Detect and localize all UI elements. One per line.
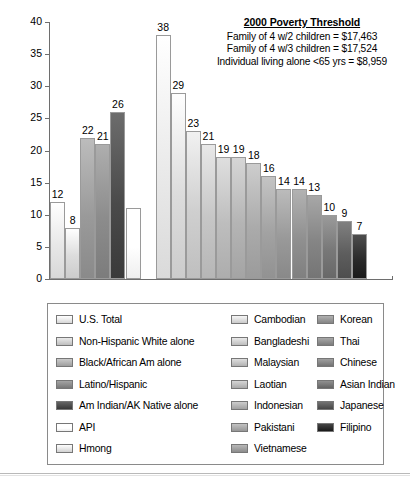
- legend-column-1: U.S. TotalNon-Hispanic White aloneBlack/…: [56, 309, 231, 460]
- legend-item[interactable]: Chinese: [317, 352, 389, 374]
- legend-swatch: [56, 337, 73, 346]
- legend-item[interactable]: Filipino: [317, 417, 389, 439]
- bar: [201, 144, 216, 279]
- bar-value-label: 16: [255, 162, 282, 174]
- legend-label: Malaysian: [254, 357, 299, 368]
- legend-label: Filipino: [340, 422, 371, 433]
- y-tick-mark: [45, 22, 49, 23]
- legend-item[interactable]: Korean: [317, 309, 389, 331]
- legend-swatch: [317, 380, 334, 389]
- bar: [216, 157, 231, 279]
- legend-item[interactable]: Am Indian/AK Native alone: [56, 395, 231, 417]
- legend-label: Vietnamese: [254, 443, 307, 454]
- legend-label: Indonesian: [254, 400, 303, 411]
- legend-swatch: [231, 423, 248, 432]
- legend-item[interactable]: Pakistani: [231, 417, 317, 439]
- legend-item[interactable]: Indonesian: [231, 395, 317, 417]
- y-tick-label: 25: [22, 111, 42, 123]
- legend-swatch: [56, 358, 73, 367]
- bar: [246, 163, 261, 279]
- chart-figure: 2000 Poverty Threshold Family of 4 w/2 c…: [0, 0, 410, 484]
- legend-label: Korean: [340, 314, 372, 325]
- legend-label: Laotian: [254, 379, 287, 390]
- y-tick-label: 35: [22, 47, 42, 59]
- bar: [231, 157, 246, 279]
- legend-swatch: [56, 380, 73, 389]
- legend-item[interactable]: Latino/Hispanic: [56, 374, 231, 396]
- legend-column-2: CambodianBangladeshiMalaysianLaotianIndo…: [231, 309, 317, 460]
- legend-swatch: [231, 337, 248, 346]
- legend-item[interactable]: Laotian: [231, 374, 317, 396]
- legend-label: Black/African Am alone: [79, 357, 181, 368]
- legend-swatch: [231, 401, 248, 410]
- legend-item[interactable]: API: [56, 417, 231, 439]
- bar: [292, 189, 307, 279]
- bar: [276, 189, 291, 279]
- bar-value-label: 23: [180, 117, 207, 129]
- legend-swatch: [231, 358, 248, 367]
- y-tick-label: 40: [22, 15, 42, 27]
- legend-item[interactable]: Asian Indian: [317, 374, 389, 396]
- legend-swatch: [231, 444, 248, 453]
- bar: [80, 138, 95, 279]
- bar: [261, 176, 276, 279]
- legend-swatch: [317, 315, 334, 324]
- y-tick-mark: [45, 279, 49, 280]
- y-tick-label: 5: [22, 240, 42, 252]
- legend-item[interactable]: Thai: [317, 331, 389, 353]
- bar: [65, 228, 80, 279]
- legend-swatch: [317, 358, 334, 367]
- legend-label: Bangladeshi: [254, 336, 309, 347]
- legend-label: Non-Hispanic White alone: [79, 336, 194, 347]
- bar-value-label: 38: [150, 21, 177, 33]
- y-tick-mark: [45, 215, 49, 216]
- y-tick-mark: [45, 151, 49, 152]
- bar-value-label: 18: [240, 149, 267, 161]
- plot-area: 12822212638292321191918161414131097: [49, 22, 393, 280]
- legend-label: Am Indian/AK Native alone: [79, 400, 198, 411]
- y-tick-mark: [45, 118, 49, 119]
- bar-value-label: 13: [301, 181, 328, 193]
- legend-item[interactable]: U.S. Total: [56, 309, 231, 331]
- legend-item[interactable]: Japanese: [317, 395, 389, 417]
- legend: U.S. TotalNon-Hispanic White aloneBlack/…: [47, 303, 384, 465]
- legend-swatch: [317, 401, 334, 410]
- legend-item[interactable]: Cambodian: [231, 309, 317, 331]
- bar-value-label: 21: [195, 130, 222, 142]
- bar: [186, 131, 201, 279]
- legend-column-3: KoreanThaiChineseAsian IndianJapaneseFil…: [317, 309, 389, 438]
- bar: [352, 234, 367, 279]
- bar-value-label: 12: [44, 188, 71, 200]
- legend-swatch: [317, 337, 334, 346]
- legend-item[interactable]: Bangladeshi: [231, 331, 317, 353]
- legend-label: Pakistani: [254, 422, 294, 433]
- legend-swatch: [231, 315, 248, 324]
- legend-label: U.S. Total: [79, 314, 122, 325]
- legend-label: Chinese: [340, 357, 377, 368]
- y-tick-mark: [45, 183, 49, 184]
- bar: [322, 215, 337, 279]
- footer-rule-secondary: [0, 475, 410, 476]
- y-tick-label: 20: [22, 144, 42, 156]
- y-tick-label: 0: [22, 272, 42, 284]
- y-tick-mark: [45, 86, 49, 87]
- y-axis-labels: 0510152025303540: [22, 22, 42, 280]
- legend-item[interactable]: Black/African Am alone: [56, 352, 231, 374]
- legend-item[interactable]: Non-Hispanic White alone: [56, 331, 231, 353]
- legend-swatch: [317, 423, 334, 432]
- legend-swatch: [56, 315, 73, 324]
- bar: [95, 144, 110, 279]
- legend-swatch: [56, 444, 73, 453]
- legend-item[interactable]: Vietnamese: [231, 438, 317, 460]
- legend-item[interactable]: Malaysian: [231, 352, 317, 374]
- y-tick-label: 10: [22, 208, 42, 220]
- legend-label: Thai: [340, 336, 359, 347]
- legend-label: Japanese: [340, 400, 383, 411]
- bar: [156, 35, 171, 279]
- legend-label: Latino/Hispanic: [79, 379, 147, 390]
- legend-swatch: [56, 423, 73, 432]
- bar-value-label: 29: [165, 79, 192, 91]
- y-tick-mark: [45, 247, 49, 248]
- bar: [110, 112, 125, 279]
- legend-item[interactable]: Hmong: [56, 438, 231, 460]
